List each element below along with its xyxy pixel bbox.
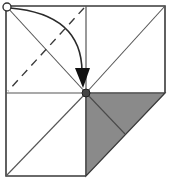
- fold-diagram-svg: [0, 0, 169, 179]
- diagonal-crease-tr: [86, 6, 165, 93]
- diagonal-crease-bl: [6, 93, 86, 176]
- fold-arrow-curve: [10, 8, 82, 72]
- origami-diagram: [0, 0, 169, 179]
- target-marker-icon: [82, 89, 90, 97]
- fold-arrow-head-icon: [75, 68, 90, 88]
- start-marker-icon: [3, 3, 11, 11]
